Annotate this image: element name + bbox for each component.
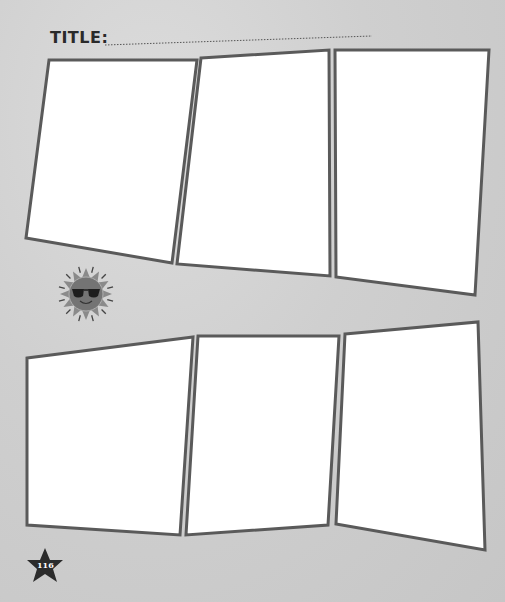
title-input-line[interactable] <box>105 36 372 45</box>
comic-panel-1[interactable] <box>26 60 197 263</box>
page-number: 116 <box>37 560 53 570</box>
comic-panel-6[interactable] <box>336 322 485 550</box>
sun-icon <box>59 267 113 321</box>
comic-page-layer <box>0 0 505 602</box>
comic-panel-4[interactable] <box>27 337 193 535</box>
comic-panel-2[interactable] <box>177 50 330 276</box>
comic-panel-5[interactable] <box>186 336 339 535</box>
comic-panel-3[interactable] <box>335 50 489 295</box>
